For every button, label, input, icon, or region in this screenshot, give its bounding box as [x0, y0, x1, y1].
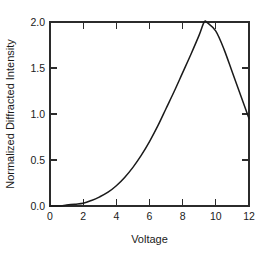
chart-figure: 0 2 4 6 8 10 12 0.0 0.5 1.0 1.5 2.0 Volt… — [0, 0, 268, 261]
x-tick-label: 4 — [113, 210, 119, 222]
y-axis-title: Normalized Diffracted Intensity — [4, 39, 16, 189]
y-axis-ticks-left — [50, 22, 57, 206]
y-tick-label: 1.5 — [30, 62, 45, 74]
x-tick-label: 2 — [80, 210, 86, 222]
chart-svg: 0 2 4 6 8 10 12 0.0 0.5 1.0 1.5 2.0 Volt… — [0, 0, 268, 261]
plot-frame — [50, 22, 249, 206]
x-tick-label: 8 — [180, 210, 186, 222]
y-tick-labels: 0.0 0.5 1.0 1.5 2.0 — [30, 16, 45, 212]
x-tick-label: 10 — [210, 210, 222, 222]
y-tick-label: 0.0 — [30, 200, 45, 212]
y-tick-label: 0.5 — [30, 154, 45, 166]
x-axis-ticks-top — [50, 22, 249, 29]
x-tick-label: 12 — [243, 210, 255, 222]
x-tick-labels: 0 2 4 6 8 10 12 — [47, 210, 255, 222]
x-axis-title: Voltage — [131, 233, 168, 245]
y-tick-label: 2.0 — [30, 16, 45, 28]
x-axis-ticks-bottom — [50, 199, 249, 206]
x-tick-label: 0 — [47, 210, 53, 222]
x-tick-label: 6 — [147, 210, 153, 222]
data-series-curve — [50, 21, 249, 206]
y-tick-label: 1.0 — [30, 108, 45, 120]
